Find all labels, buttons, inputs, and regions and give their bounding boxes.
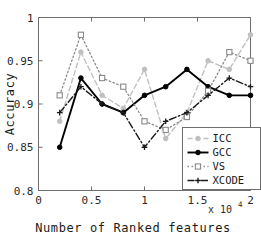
series-icc bbox=[57, 33, 252, 141]
data-point-square bbox=[78, 32, 83, 37]
chart-figure: 0.80.850.90.951 00.511.52 Accuracy Numbe… bbox=[0, 0, 261, 238]
x-tick-label: 1.5 bbox=[188, 194, 208, 207]
x-tick-label: 2 bbox=[247, 194, 254, 207]
legend-label-icc: ICC bbox=[213, 132, 232, 144]
y-axis-label: Accuracy bbox=[3, 73, 17, 136]
legend-marker-circle bbox=[196, 136, 201, 141]
y-tick-label: 0.85 bbox=[7, 141, 34, 154]
x-tick-label: 0 bbox=[35, 194, 42, 207]
data-point-circle bbox=[79, 50, 84, 55]
data-point-circle bbox=[163, 136, 168, 141]
data-point-square bbox=[163, 127, 168, 132]
x-tick-label: 1 bbox=[141, 194, 148, 207]
x-axis-exponent-base: x 10 bbox=[208, 204, 232, 215]
x-axis-exponent: x 10 4 bbox=[208, 200, 243, 215]
legend-label-xcode: XCODE bbox=[213, 174, 245, 186]
data-point-circle bbox=[57, 119, 62, 124]
x-axis-exponent-power: 4 bbox=[238, 200, 243, 209]
data-point-circle bbox=[227, 93, 232, 98]
x-tick-label: 0.5 bbox=[82, 194, 102, 207]
data-point-circle bbox=[79, 76, 84, 81]
y-tick-label: 0.8 bbox=[14, 185, 34, 198]
data-point-circle bbox=[185, 67, 190, 72]
data-point-circle bbox=[227, 67, 232, 72]
data-point-circle bbox=[100, 93, 105, 98]
data-point-circle bbox=[142, 93, 147, 98]
accuracy-line-chart: 0.80.850.90.951 00.511.52 Accuracy Numbe… bbox=[0, 0, 261, 238]
chart-legend[interactable]: ICCGCCVSXCODE bbox=[183, 128, 261, 190]
legend-label-vs: VS bbox=[213, 160, 226, 172]
y-tick-label: 1 bbox=[27, 12, 34, 25]
data-point-circle bbox=[163, 84, 168, 89]
legend-marker-square bbox=[195, 164, 200, 169]
data-point-circle bbox=[57, 145, 62, 150]
series-vs bbox=[57, 32, 253, 132]
data-point-circle bbox=[142, 67, 147, 72]
data-point-square bbox=[227, 50, 232, 55]
data-point-square bbox=[100, 75, 105, 80]
series-line-vs bbox=[60, 35, 251, 130]
x-axis-label: Number of Ranked features bbox=[35, 221, 231, 235]
data-point-circle bbox=[248, 93, 253, 98]
data-point-square bbox=[142, 119, 147, 124]
data-point-plus bbox=[248, 84, 254, 90]
data-point-square bbox=[57, 93, 62, 98]
data-point-circle bbox=[248, 33, 253, 38]
y-tick-label: 0.95 bbox=[7, 55, 34, 68]
data-point-square bbox=[121, 84, 126, 89]
data-point-square bbox=[248, 58, 253, 63]
data-point-circle bbox=[206, 58, 211, 63]
legend-marker-circle bbox=[196, 150, 201, 155]
legend-label-gcc: GCC bbox=[213, 146, 232, 158]
